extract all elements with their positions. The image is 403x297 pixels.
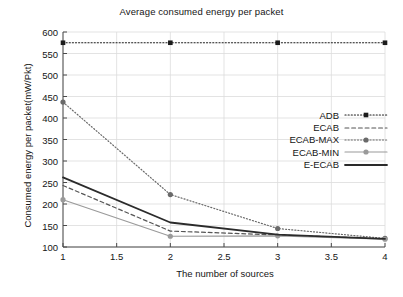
legend-label: E-ECAB <box>304 159 339 170</box>
x-tick-label: 3 <box>275 251 280 262</box>
y-tick-label: 350 <box>42 134 58 145</box>
y-tick-label: 550 <box>42 48 58 59</box>
legend-label: ADB <box>319 110 339 121</box>
y-tick-label: 150 <box>42 220 58 231</box>
legend-line-sample <box>344 134 388 146</box>
chart-legend: ADBECABECAB-MAXECAB-MINE-ECAB <box>258 109 388 171</box>
legend-line-sample <box>344 159 388 171</box>
x-tick-label: 4 <box>382 251 387 262</box>
x-tick-label: 1 <box>60 251 65 262</box>
legend-label: ECAB-MAX <box>289 134 339 145</box>
legend-line-sample <box>344 109 388 121</box>
data-point-marker <box>275 226 280 231</box>
legend-item-adb: ADB <box>258 109 388 121</box>
legend-item-ecab-max: ECAB-MAX <box>258 134 388 146</box>
x-tick-label: 1.5 <box>110 251 123 262</box>
legend-item-e-ecab: E-ECAB <box>258 159 388 171</box>
legend-label: ECAB <box>313 122 339 133</box>
data-point-marker <box>275 40 280 45</box>
y-tick-label: 600 <box>42 27 58 38</box>
data-point-marker <box>61 40 66 45</box>
data-point-marker <box>168 234 173 239</box>
data-point-marker <box>60 99 65 104</box>
y-tick-label: 250 <box>42 177 58 188</box>
x-tick-label: 2.5 <box>217 251 230 262</box>
y-tick-label: 200 <box>42 199 58 210</box>
legend-line-sample <box>344 122 388 134</box>
legend-sample-marker <box>363 150 368 155</box>
y-tick-label: 450 <box>42 91 58 102</box>
legend-line-sample <box>344 146 388 158</box>
data-point-marker <box>383 40 388 45</box>
legend-label: ECAB-MIN <box>293 147 339 158</box>
data-point-marker <box>168 192 173 197</box>
y-tick-label: 400 <box>42 113 58 124</box>
x-axis-label: The number of sources <box>60 268 390 279</box>
legend-sample-marker <box>363 137 368 142</box>
y-axis-label: Consumed energy per packet(mW/Pkt) <box>22 36 33 256</box>
chart-title: Average consumed energy per packet <box>0 6 403 17</box>
data-point-marker <box>168 40 173 45</box>
legend-sample-marker <box>364 113 369 118</box>
y-tick-label: 500 <box>42 70 58 81</box>
y-tick-label: 300 <box>42 156 58 167</box>
chart-figure: Average consumed energy per packet Consu… <box>0 0 403 297</box>
y-tick-label: 100 <box>42 242 58 253</box>
legend-item-ecab-min: ECAB-MIN <box>258 146 388 158</box>
x-tick-label: 2 <box>168 251 173 262</box>
x-tick-label: 3.5 <box>325 251 338 262</box>
data-point-marker <box>60 197 65 202</box>
legend-item-ecab: ECAB <box>258 121 388 133</box>
